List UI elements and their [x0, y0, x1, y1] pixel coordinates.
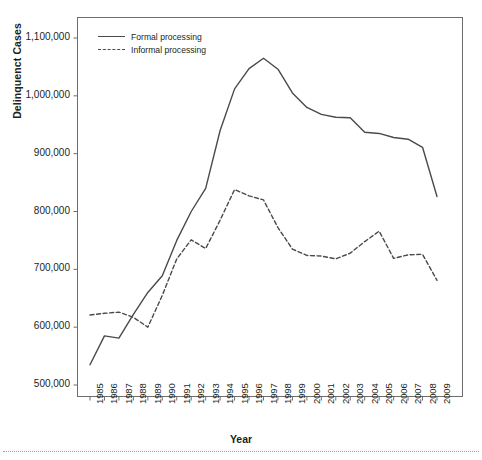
plot-border — [78, 18, 463, 397]
y-tick-label: 700,000 — [4, 262, 70, 273]
x-axis-title: Year — [0, 433, 482, 445]
x-tick-label: 2007 — [412, 383, 423, 404]
x-tick-label: 2002 — [340, 383, 351, 404]
y-axis-title: Delinquenct Cases — [11, 0, 23, 151]
x-tick-label: 2000 — [311, 383, 322, 404]
x-tick-label: 1991 — [181, 383, 192, 404]
x-tick-label: 2008 — [427, 383, 438, 404]
y-tick-label: 800,000 — [4, 205, 70, 216]
footer-divider — [3, 451, 479, 452]
legend-item-formal: Formal processing — [98, 30, 206, 43]
x-tick-label: 1990 — [166, 383, 177, 404]
x-tick-label: 2001 — [325, 383, 336, 404]
x-tick-label: 2006 — [398, 383, 409, 404]
x-tick-label: 1994 — [224, 383, 235, 404]
legend-line-solid-icon — [98, 32, 125, 41]
y-tick-label: 1,100,000 — [4, 31, 70, 42]
x-tick-label: 1992 — [195, 383, 206, 404]
legend-label-formal: Formal processing — [131, 32, 202, 42]
x-tick-label: 2005 — [383, 383, 394, 404]
chart-figure: Delinquenct Cases Formal processing Info… — [0, 0, 482, 460]
legend-label-informal: Informal processing — [131, 45, 206, 55]
x-tick-label: 1998 — [282, 383, 293, 404]
x-tick-label: 1989 — [152, 383, 163, 404]
x-tick-label: 1993 — [210, 383, 221, 404]
x-tick-label: 1999 — [296, 383, 307, 404]
x-tick-label: 2003 — [354, 383, 365, 404]
x-tick-label: 1987 — [123, 383, 134, 404]
legend-item-informal: Informal processing — [98, 43, 206, 56]
chart-legend: Formal processing Informal processing — [98, 30, 206, 56]
y-tick-marks — [74, 38, 78, 385]
legend-line-dashed-icon — [98, 45, 125, 54]
y-tick-label: 500,000 — [4, 378, 70, 389]
x-tick-label: 1988 — [137, 383, 148, 404]
x-tick-label: 1995 — [239, 383, 250, 404]
y-tick-label: 1,000,000 — [4, 89, 70, 100]
series-line-formal-processing — [90, 58, 437, 365]
y-tick-label: 900,000 — [4, 147, 70, 158]
x-tick-label: 1985 — [94, 383, 105, 404]
x-tick-label: 1996 — [253, 383, 264, 404]
x-tick-label: 2009 — [441, 383, 452, 404]
y-tick-label: 600,000 — [4, 320, 70, 331]
x-tick-label: 2004 — [369, 383, 380, 404]
x-tick-label: 1986 — [108, 383, 119, 404]
x-tick-label: 1997 — [268, 383, 279, 404]
series-line-informal-processing — [90, 190, 437, 328]
